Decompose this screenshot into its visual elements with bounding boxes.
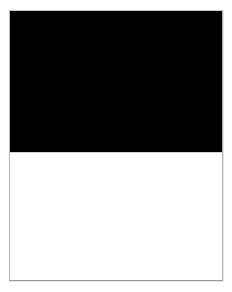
page-sheet[interactable] (9, 10, 223, 281)
document-canvas: Blank document page with a solid black u… (0, 0, 232, 292)
sheet-shadow-right (223, 11, 224, 282)
blank-block (10, 153, 223, 281)
dark-block (10, 11, 223, 152)
page-description: Blank document page with a solid black u… (0, 0, 1, 1)
sheet-shadow-bottom (10, 281, 224, 282)
